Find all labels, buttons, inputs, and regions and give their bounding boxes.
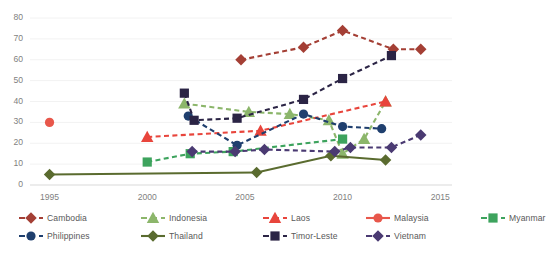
data-point <box>415 44 427 56</box>
legend-swatch-diamond-icon <box>365 229 391 243</box>
legend-marker-square-icon <box>488 213 497 222</box>
legend-swatch <box>140 229 166 243</box>
legend-label: Philippines <box>47 231 90 241</box>
y-tick-label: 70 <box>0 33 23 43</box>
data-point <box>143 157 152 166</box>
data-point <box>379 95 391 106</box>
data-point <box>337 25 349 37</box>
data-point <box>358 133 370 144</box>
legend-marker-circle-icon <box>373 213 382 222</box>
data-point <box>44 169 56 181</box>
legend-marker-diamond-icon <box>25 212 37 224</box>
legend-swatch-square-icon <box>262 229 288 243</box>
data-point <box>338 122 347 131</box>
chart-plot-area <box>0 0 455 205</box>
legend-swatch <box>18 211 44 225</box>
legend-label: Indonesia <box>169 213 207 223</box>
y-tick-label: 50 <box>0 75 23 85</box>
legend-label: Myanmar <box>509 213 546 223</box>
y-tick-label: 0 <box>0 179 23 189</box>
legend-swatch <box>262 229 288 243</box>
series-line <box>184 56 391 121</box>
data-point <box>415 129 427 141</box>
x-tick-label: 2015 <box>418 192 462 202</box>
data-point <box>387 51 396 60</box>
data-point <box>235 54 247 66</box>
legend-marker-diamond-icon <box>372 230 384 242</box>
legend-swatch <box>262 211 288 225</box>
legend-swatch <box>365 211 391 225</box>
legend-label: Vietnam <box>394 231 426 241</box>
data-point <box>377 124 386 133</box>
legend-swatch-diamond-icon <box>18 211 44 225</box>
x-tick-label: 2010 <box>321 192 365 202</box>
legend-marker-triangle-icon <box>269 212 281 223</box>
legend-item-philippines[interactable]: Philippines <box>18 227 90 245</box>
legend-marker-circle-icon <box>26 231 35 240</box>
data-point <box>232 114 241 123</box>
legend-label: Timor-Leste <box>291 231 338 241</box>
legend-swatch-triangle-icon <box>140 211 166 225</box>
legend-label: Laos <box>291 213 310 223</box>
x-tick-label: 1995 <box>28 192 72 202</box>
y-tick-label: 40 <box>0 96 23 106</box>
data-point <box>298 41 310 53</box>
legend-swatch-diamond-icon <box>140 229 166 243</box>
data-point <box>338 74 347 83</box>
data-point <box>45 118 54 127</box>
legend-item-timor-leste[interactable]: Timor-Leste <box>262 227 338 245</box>
legend-item-myanmar[interactable]: Myanmar <box>480 209 546 227</box>
y-tick-label: 10 <box>0 158 23 168</box>
data-point <box>251 167 263 179</box>
legend-row-secondary: PhilippinesThailandTimor-LesteVietnam <box>0 227 455 245</box>
legend-marker-diamond-icon <box>147 230 159 242</box>
series-philippines <box>184 109 387 150</box>
legend-label: Cambodia <box>47 213 87 223</box>
y-tick-label: 60 <box>0 54 23 64</box>
legend-item-thailand[interactable]: Thailand <box>140 227 203 245</box>
legend-item-malaysia[interactable]: Malaysia <box>365 209 429 227</box>
legend-swatch <box>18 229 44 243</box>
y-tick-label: 80 <box>0 12 23 22</box>
legend-item-indonesia[interactable]: Indonesia <box>140 209 207 227</box>
legend-item-cambodia[interactable]: Cambodia <box>18 209 87 227</box>
data-point <box>299 95 308 104</box>
x-tick-label: 2005 <box>223 192 267 202</box>
legend-swatch <box>365 229 391 243</box>
chart-legend: CambodiaIndonesiaLaosMalaysiaMyanmar Phi… <box>0 205 455 257</box>
data-point <box>299 109 308 118</box>
legend-swatch-circle-icon <box>18 229 44 243</box>
x-tick-label: 2000 <box>125 192 169 202</box>
series-malaysia <box>45 118 54 127</box>
legend-swatch-triangle-icon <box>262 211 288 225</box>
legend-swatch-square-icon <box>480 211 506 225</box>
y-tick-label: 30 <box>0 116 23 126</box>
series-line <box>50 156 386 175</box>
legend-item-laos[interactable]: Laos <box>262 209 310 227</box>
legend-swatch-circle-icon <box>365 211 391 225</box>
data-point <box>338 134 347 143</box>
legend-swatch <box>140 211 166 225</box>
data-point <box>259 144 271 156</box>
legend-row-primary: CambodiaIndonesiaLaosMalaysiaMyanmar <box>0 209 455 227</box>
data-point <box>190 116 199 125</box>
legend-swatch <box>480 211 506 225</box>
legend-marker-triangle-icon <box>147 212 159 223</box>
data-point <box>180 89 189 98</box>
series-laos <box>141 95 392 142</box>
y-tick-label: 20 <box>0 137 23 147</box>
legend-marker-square-icon <box>270 231 279 240</box>
legend-item-vietnam[interactable]: Vietnam <box>365 227 426 245</box>
legend-label: Malaysia <box>394 213 429 223</box>
legend-label: Thailand <box>169 231 203 241</box>
